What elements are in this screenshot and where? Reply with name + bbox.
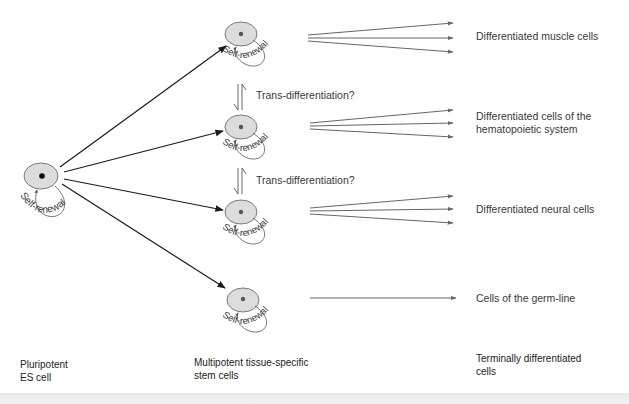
nucleus-icon xyxy=(39,173,45,179)
column-label-multipotent: Multipotent tissue-specific stem cells xyxy=(194,356,309,382)
nucleus-icon xyxy=(239,125,243,129)
multipotent-cell-hematopoietic: Self-renewal xyxy=(221,115,270,159)
target-label-neural: Differentiated neural cells xyxy=(476,203,594,216)
target-label-germline: Cells of the germ-line xyxy=(476,292,575,305)
differentiation-arrows xyxy=(308,23,456,298)
nucleus-icon xyxy=(241,297,245,301)
column-label-terminal: Terminally differentiated cells xyxy=(476,352,581,378)
commitment-arrows xyxy=(60,46,226,288)
stem-cell-hierarchy-diagram: Self-renewal Self-renewal Self-renewal S… xyxy=(0,0,629,404)
trans-differentiation-label: Trans-differentiation? xyxy=(256,89,355,102)
trans-differentiation-label: Trans-differentiation? xyxy=(256,174,355,187)
target-label-muscle: Differentiated muscle cells xyxy=(476,30,598,43)
multipotent-cell-neural: Self-renewal xyxy=(221,200,270,244)
multipotent-cell-muscle: Self-renewal xyxy=(221,22,270,66)
bottom-edge-strip xyxy=(0,393,629,404)
nucleus-icon xyxy=(239,32,243,36)
column-label-pluripotent: Pluripotent ES cell xyxy=(20,358,68,384)
multipotent-cell-germline: Self-renewal xyxy=(221,288,270,332)
target-label-hematopoietic: Differentiated cells of the hematopoieti… xyxy=(476,110,591,136)
nucleus-icon xyxy=(239,210,243,214)
pluripotent-es-cell: Self-renewal xyxy=(18,163,67,217)
self-renewal-label: Self-renewal xyxy=(18,190,67,215)
